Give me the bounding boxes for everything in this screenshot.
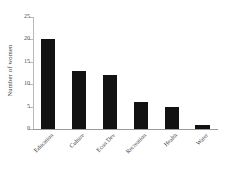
y-tick-label: 5: [27, 103, 30, 109]
x-tick-label: Education: [25, 132, 55, 162]
bar: [165, 107, 179, 129]
bar-series: [33, 17, 218, 129]
bar: [72, 71, 86, 129]
y-tick-label: 0: [27, 125, 30, 131]
x-tick-label: Recreation: [117, 132, 147, 162]
plot-area: 0510152025: [33, 17, 218, 129]
y-tick-label: 15: [24, 58, 30, 64]
bar: [103, 75, 117, 129]
bar: [134, 102, 148, 129]
y-tick-label: 10: [24, 80, 30, 86]
x-tick-label: Health: [148, 132, 178, 162]
bar: [41, 39, 55, 129]
x-tick-label: Water: [179, 132, 209, 162]
x-axis-labels: EducationCultureEcon DevRecreationHealth…: [33, 130, 218, 179]
bar-chart: Number of women 0510152025 EducationCult…: [0, 0, 225, 179]
bar: [195, 125, 209, 129]
y-tick-label: 20: [24, 35, 30, 41]
y-tick-label: 25: [24, 13, 30, 19]
y-axis-title-text: Number of women: [6, 44, 13, 96]
x-tick-label: Culture: [56, 132, 86, 162]
y-axis-title: Number of women: [0, 0, 18, 140]
x-tick-label: Econ Dev: [87, 132, 117, 162]
